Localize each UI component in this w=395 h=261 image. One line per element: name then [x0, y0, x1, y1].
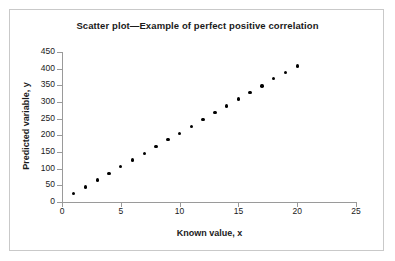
data-point: [284, 71, 287, 74]
figure-root: Scatter plot—Example of perfect positive…: [0, 0, 395, 261]
y-tick-label: 200: [29, 130, 55, 139]
data-point: [119, 165, 122, 168]
x-tick-label: 20: [285, 206, 309, 216]
data-point: [107, 172, 110, 175]
y-tick-label: 50: [29, 180, 55, 189]
y-tick-label-wrap: 100: [27, 164, 55, 173]
data-point: [296, 64, 299, 67]
y-tick-label: 400: [29, 64, 55, 73]
x-axis-line: [62, 202, 357, 203]
data-point: [72, 192, 75, 195]
data-point: [96, 178, 99, 181]
y-tick-label: 300: [29, 97, 55, 106]
y-tick-label-wrap: 450: [27, 47, 55, 56]
x-axis-title: Known value, x: [62, 228, 357, 238]
data-point: [131, 158, 134, 161]
y-tick-mark: [57, 102, 62, 103]
y-tick-mark: [57, 185, 62, 186]
x-tick-label: 0: [50, 206, 74, 216]
y-tick-label-wrap: 150: [27, 147, 55, 156]
x-tick-label: 10: [168, 206, 192, 216]
y-tick-label-wrap: 350: [27, 80, 55, 89]
data-point: [143, 152, 146, 155]
y-tick-label: 0: [29, 197, 55, 206]
plot-area: 050100150200250300350400450 0510152025 P…: [0, 0, 395, 261]
y-axis-line: [62, 52, 63, 203]
y-tick-label: 350: [29, 80, 55, 89]
x-tick-label: 5: [109, 206, 133, 216]
data-point: [225, 104, 228, 107]
y-tick-label: 250: [29, 114, 55, 123]
data-point: [166, 138, 169, 141]
data-point: [154, 145, 157, 148]
x-tick-label: 25: [344, 206, 368, 216]
data-point: [201, 118, 204, 121]
y-tick-mark: [57, 152, 62, 153]
y-tick-label: 100: [29, 164, 55, 173]
data-point: [190, 125, 193, 128]
y-tick-label-wrap: 250: [27, 114, 55, 123]
y-tick-label: 150: [29, 147, 55, 156]
data-point: [84, 185, 87, 188]
data-point: [260, 84, 263, 87]
data-point: [237, 97, 240, 100]
y-tick-mark: [57, 135, 62, 136]
y-tick-label: 450: [29, 47, 55, 56]
y-tick-label-wrap: 400: [27, 64, 55, 73]
data-point: [178, 132, 181, 135]
y-tick-mark: [57, 119, 62, 120]
y-tick-mark: [57, 52, 62, 53]
y-tick-label-wrap: 200: [27, 130, 55, 139]
data-point: [272, 77, 275, 80]
y-tick-label-wrap: 300: [27, 97, 55, 106]
x-tick-label: 15: [226, 206, 250, 216]
data-point: [213, 111, 216, 114]
y-tick-label-wrap: 0: [27, 197, 55, 206]
y-tick-label-wrap: 50: [27, 180, 55, 189]
y-tick-mark: [57, 169, 62, 170]
y-tick-mark: [57, 69, 62, 70]
data-point: [248, 91, 251, 94]
y-axis-title: Predicted variable, y: [21, 46, 31, 206]
y-tick-mark: [57, 85, 62, 86]
